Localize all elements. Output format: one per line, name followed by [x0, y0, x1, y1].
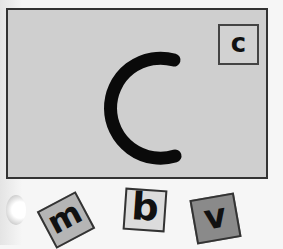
letter-tile-v[interactable]: v: [189, 192, 241, 244]
corner-letter-box: c: [218, 24, 259, 65]
letter-card: c: [6, 8, 268, 179]
big-letter-c-glyph: [76, 46, 196, 170]
tile-letter: v: [201, 197, 229, 234]
tile-letter: m: [42, 195, 86, 239]
page-binding-notch: [6, 195, 26, 225]
letter-tile-b[interactable]: b: [123, 188, 168, 233]
tile-letter: b: [130, 187, 160, 227]
letter-tile-m[interactable]: m: [37, 191, 96, 249]
corner-letter: c: [231, 30, 246, 56]
